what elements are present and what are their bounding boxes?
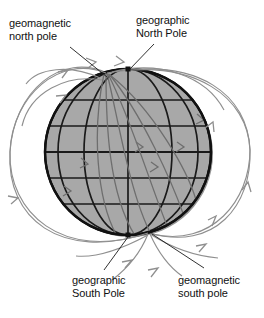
geomagnetic-field-diagram: [0, 0, 264, 318]
label-line-2: south pole: [178, 287, 228, 299]
label-line-2: North Pole: [136, 27, 187, 39]
label-geographic-north-pole: geographicNorth Pole: [136, 14, 189, 39]
label-line-1: geographic: [72, 274, 125, 286]
label-line-1: geographic: [136, 14, 189, 26]
label-line-2: South Pole: [72, 287, 125, 299]
label-line-1: geomagnetic: [178, 274, 240, 286]
geographic-south-pole-marker: [126, 233, 131, 238]
label-geographic-south-pole: geographicSouth Pole: [72, 274, 125, 299]
label-line-2: north pole: [9, 30, 57, 42]
label-geomagnetic-north-pole: geomagneticnorth pole: [9, 17, 71, 42]
label-line-1: geomagnetic: [9, 17, 71, 29]
label-geomagnetic-south-pole: geomagneticsouth pole: [178, 274, 240, 299]
